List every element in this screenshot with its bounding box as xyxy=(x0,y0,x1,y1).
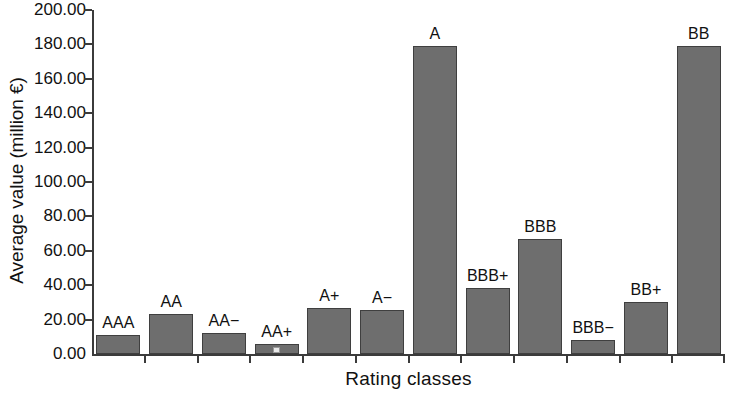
y-axis-tick-label: 100.00 xyxy=(34,172,86,192)
y-axis-tick-mark xyxy=(84,215,92,217)
y-axis-tick-mark xyxy=(84,284,92,286)
x-axis-tick-mark xyxy=(355,356,357,363)
bar xyxy=(518,239,562,354)
bar xyxy=(413,46,457,354)
x-axis-tick-mark xyxy=(249,356,251,363)
x-axis-tick-mark xyxy=(619,356,621,363)
x-axis-tick-mark xyxy=(671,356,673,363)
bar-label: BB xyxy=(688,25,709,43)
y-axis-tick-label: 40.00 xyxy=(43,275,86,295)
bar-label: A+ xyxy=(319,287,339,305)
y-axis-tick-mark xyxy=(84,147,92,149)
bar xyxy=(202,333,246,355)
bar xyxy=(307,308,351,354)
bar-label: A xyxy=(430,25,441,43)
bar-label: BBB− xyxy=(572,319,613,337)
y-axis-tick-label: 80.00 xyxy=(43,206,86,226)
bar-label: BB+ xyxy=(631,281,662,299)
x-axis-tick-mark xyxy=(513,356,515,363)
x-axis-tick-mark xyxy=(460,356,462,363)
y-axis-tick-label: 140.00 xyxy=(34,103,86,123)
bar xyxy=(571,340,615,354)
bar-artifact-speck xyxy=(273,347,280,353)
bar xyxy=(96,335,140,354)
y-axis-tick-mark xyxy=(84,319,92,321)
y-axis-line xyxy=(92,10,94,356)
bar-label: AA− xyxy=(209,312,240,330)
bar xyxy=(624,302,668,354)
y-axis-tick-label: 160.00 xyxy=(34,69,86,89)
y-axis-tick-mark xyxy=(84,78,92,80)
y-axis-tick-label: 60.00 xyxy=(43,241,86,261)
bar-label: AA xyxy=(160,293,181,311)
bar xyxy=(466,288,510,354)
bar xyxy=(149,314,193,354)
chart-figure: Average value (million €) 0.0020.0040.00… xyxy=(0,0,732,415)
y-axis-tick-mark xyxy=(84,181,92,183)
y-axis-tick-label: 0.00 xyxy=(53,344,86,364)
x-axis-tick-mark xyxy=(566,356,568,363)
y-axis-tick-mark xyxy=(84,9,92,11)
plot-area: AAAAAAA−AA+A+A−ABBB+BBBBBB−BB+BB xyxy=(92,10,725,355)
bar xyxy=(360,310,404,354)
x-axis-tick-mark xyxy=(723,356,725,363)
y-axis-tick-label: 180.00 xyxy=(34,34,86,54)
bar xyxy=(677,46,721,354)
x-axis-title: Rating classes xyxy=(92,368,725,390)
y-axis-tick-label: 20.00 xyxy=(43,310,86,330)
x-axis-tick-mark xyxy=(144,356,146,363)
y-axis-tick-labels: 0.0020.0040.0060.0080.00100.00120.00140.… xyxy=(26,0,90,415)
x-axis-tick-mark xyxy=(302,356,304,363)
y-axis-tick-label: 120.00 xyxy=(34,138,86,158)
bar-label: A− xyxy=(372,289,392,307)
x-axis-tick-mark xyxy=(197,356,199,363)
y-axis-tick-mark xyxy=(84,112,92,114)
bar-label: AA+ xyxy=(261,323,292,341)
bar-label: BBB xyxy=(524,218,556,236)
y-axis-tick-mark xyxy=(84,250,92,252)
bar-label: AAA xyxy=(102,314,134,332)
y-axis-tick-label: 200.00 xyxy=(34,0,86,20)
bar-label: BBB+ xyxy=(467,267,508,285)
y-axis-tick-mark xyxy=(84,43,92,45)
x-axis-tick-mark xyxy=(408,356,410,363)
